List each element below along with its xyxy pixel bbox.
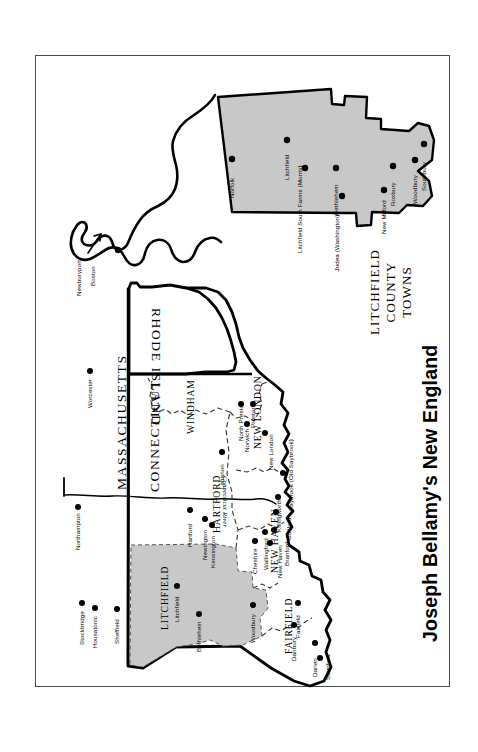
dot-litchfield-main xyxy=(174,583,180,589)
inset-label-woodbury: Woodbury xyxy=(412,175,418,204)
dot-cheshire xyxy=(252,538,258,544)
label-stockbridge: Stockbridge xyxy=(79,611,85,645)
label-guilford: Guilford xyxy=(286,518,292,540)
label-wallingford: Wallingford xyxy=(263,538,269,570)
map-canvas: Joseph Bellamy's New England LITCHFIELD … xyxy=(0,0,478,752)
inset-label-norfolk: Norfolk xyxy=(229,178,235,198)
map-page: Joseph Bellamy's New England LITCHFIELD … xyxy=(0,0,478,752)
label-northampton: Northampton xyxy=(75,513,81,550)
label-saybrook: Saybrook (Old Saybrook) xyxy=(288,438,295,512)
dot-lebanon xyxy=(219,449,225,455)
inset-label-judea-text: Judea (Washington) xyxy=(333,215,340,272)
label-bethlehem-main: Bethlehem xyxy=(196,622,202,652)
dot-housatonic xyxy=(92,605,98,611)
label-hartford-town: Hartford xyxy=(187,524,193,547)
label-newburyport: Newburyport xyxy=(76,260,82,296)
label-worcester: Worcester xyxy=(87,379,93,408)
label-litchfield-main: Litchfield xyxy=(174,597,180,622)
map-vector-artwork xyxy=(0,0,478,752)
label-preston: Preston xyxy=(250,406,256,428)
dot-wallingford xyxy=(262,529,268,535)
dot-newington xyxy=(202,516,208,522)
inset-label-litchfield-south-farms-text: Litchfield South Farms (Morris) xyxy=(296,165,303,253)
inset-label-judea: Judea (Washington) xyxy=(334,203,341,283)
label-kensington: Kensington xyxy=(210,536,216,568)
state-label-rhode-island: RHODE ISLAND xyxy=(150,308,164,427)
dot-northampton xyxy=(75,504,81,510)
dot-saybrook xyxy=(280,470,286,476)
label-newington: Newington xyxy=(202,530,208,560)
dot-southbury xyxy=(421,141,427,147)
inset-label-new-milford: New Milford xyxy=(381,200,387,234)
page-title: Joseph Bellamy's New England xyxy=(421,345,441,642)
dot-bethlehem-main xyxy=(196,611,202,617)
label-woodbury-main: Woodbury xyxy=(250,614,256,643)
label-branford: Branford xyxy=(284,541,290,566)
county-label-windham: WINDHAM xyxy=(186,379,196,434)
dot-new-milford xyxy=(381,187,387,193)
dot-judea xyxy=(339,193,345,199)
inset-litchfield-county-shape xyxy=(218,89,434,226)
label-stamford: Stamford xyxy=(325,654,331,680)
label-saybrook-text: Saybrook (Old Saybrook) xyxy=(287,439,294,511)
massachusetts-coastline xyxy=(73,95,215,250)
dot-stockbridge xyxy=(79,600,85,606)
label-sheffield: Sheffield xyxy=(114,619,120,644)
label-lebanon: Lebanon xyxy=(219,464,225,489)
rhode-island-coast-outline xyxy=(109,238,221,265)
dot-woodbury-main xyxy=(250,602,256,608)
dot-worcester xyxy=(87,368,93,374)
dot-hartford xyxy=(187,507,193,513)
newburyport-arrow xyxy=(88,234,101,253)
label-new-london-town: New London xyxy=(268,434,274,470)
inset-label-roxbury: Roxbury xyxy=(390,182,396,206)
dot-woodbury-inset xyxy=(412,157,418,163)
label-danbury: Danbury xyxy=(291,637,297,661)
inset-label-litchfield: Litchfield xyxy=(284,155,290,180)
label-housatonic: Housatonic xyxy=(92,616,98,648)
county-label-litchfield: LITCHFIELD xyxy=(160,566,170,630)
inset-label-southbury: Southbury xyxy=(421,162,427,191)
inset-caption-line-2: COUNTY xyxy=(384,232,399,352)
label-norwich: Norwich xyxy=(244,429,250,452)
label-darien: Darien xyxy=(312,658,318,677)
dot-norfolk xyxy=(229,156,235,162)
inset-caption-line-3: TOWNS xyxy=(400,232,415,352)
dot-sheffield xyxy=(114,606,120,612)
label-new-haven-town: New Haven xyxy=(277,545,283,578)
inset-label-litchfield-south-farms: Litchfield South Farms (Morris) xyxy=(297,167,304,253)
state-label-massachusetts: MASSACHUSETTS xyxy=(115,354,129,490)
dot-darien xyxy=(312,640,318,646)
inset-caption-line-1: LITCHFIELD xyxy=(368,232,383,352)
dot-boston xyxy=(115,247,121,253)
dot-roxbury xyxy=(390,163,396,169)
label-killingworth: Killingworth xyxy=(276,499,282,532)
dot-litchfield-inset xyxy=(284,137,290,143)
label-fairfield-town: Fairfield xyxy=(295,615,301,638)
dot-fairfield xyxy=(295,600,301,606)
label-boston: Boston xyxy=(90,266,96,286)
label-cheshire: Cheshire xyxy=(252,548,258,574)
dot-bethlehem-inset xyxy=(333,165,339,171)
